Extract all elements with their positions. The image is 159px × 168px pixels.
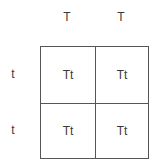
punnett-square-grid: Tt Tt Tt Tt — [40, 46, 149, 159]
cell-r1-c1: Tt — [41, 47, 96, 104]
row-allele-2: t — [3, 123, 23, 137]
cell-r1-c2: Tt — [96, 47, 148, 104]
cell-r2-c1: Tt — [41, 104, 96, 158]
column-allele-1: T — [57, 10, 77, 24]
cell-r2-c2: Tt — [96, 104, 148, 158]
row-allele-1: t — [3, 67, 23, 81]
column-allele-2: T — [111, 10, 131, 24]
